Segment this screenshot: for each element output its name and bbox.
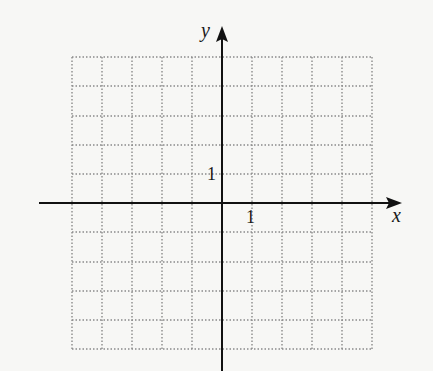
y-axis-label: y — [201, 20, 210, 40]
x-axis-label: x — [392, 205, 401, 225]
y-unit-tick-label: 1 — [207, 165, 216, 183]
x-unit-tick-label: 1 — [246, 208, 255, 226]
axes — [39, 26, 402, 371]
coordinate-plane — [0, 0, 433, 371]
